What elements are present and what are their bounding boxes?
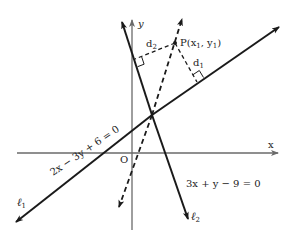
line-l2	[122, 22, 152, 115]
right-angle-mark-d2	[138, 56, 145, 66]
point-p-label: P(x1, y1)	[180, 37, 221, 50]
distance-d2-label: d2	[146, 38, 157, 51]
line-l2-equation: 3x + y − 9 = 0	[186, 178, 261, 189]
y-axis-label: y	[137, 18, 144, 29]
point-p	[173, 41, 177, 45]
line-l2-name: ℓ2	[191, 210, 200, 224]
x-axis-label: x	[268, 139, 274, 150]
origin-label: O	[120, 154, 128, 165]
bisector-line-upper	[152, 19, 182, 115]
line-l1	[152, 27, 279, 115]
line-l1-equation: 2x − 3y + 6 = 0	[48, 123, 121, 177]
line-l1-name: ℓ1	[17, 196, 26, 210]
geometry-diagram: y x O P(x1, y1) d2 d1 2x − 3y + 6 = 0 3x…	[0, 0, 290, 240]
line-l2-lower	[152, 115, 188, 219]
distance-d1-label: d1	[193, 57, 204, 70]
